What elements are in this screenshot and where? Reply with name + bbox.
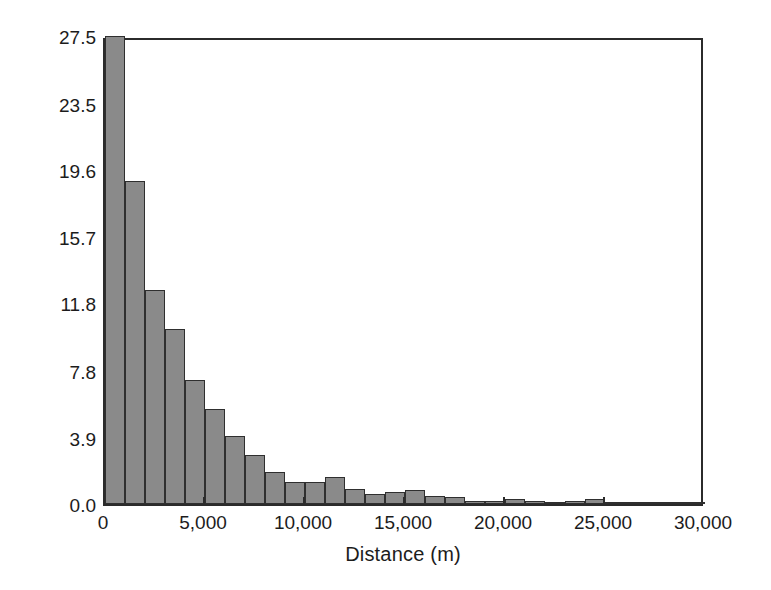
plot-frame: [103, 38, 703, 506]
histogram-bar: [345, 489, 365, 504]
histogram-bar: [565, 501, 585, 504]
histogram-bar: [445, 497, 465, 504]
histogram-bar: [545, 502, 565, 504]
histogram-bar: [485, 501, 505, 504]
histogram-bar: [385, 492, 405, 504]
histogram-bar: [645, 502, 665, 504]
x-axis-tick-mark: [403, 497, 405, 506]
y-axis-tick-label: 19.6: [32, 162, 96, 181]
x-axis-title: Distance (m): [103, 543, 703, 566]
plot-area: [105, 40, 701, 504]
histogram-bar: [205, 409, 225, 504]
y-axis-tick-label: 27.5: [32, 28, 96, 47]
x-axis-tick-mark: [303, 497, 305, 506]
histogram-bar: [225, 436, 245, 504]
histogram-bar: [685, 502, 705, 504]
histogram-bar: [365, 494, 385, 504]
histogram-bar: [165, 329, 185, 504]
histogram-bar: [665, 502, 685, 504]
x-axis-tick-mark: [203, 497, 205, 506]
histogram-bar: [185, 380, 205, 504]
histogram-bar: [585, 499, 605, 504]
y-axis-tick-label: 23.5: [32, 96, 96, 115]
histogram-bar: [145, 290, 165, 504]
histogram-bar: [325, 477, 345, 504]
y-axis-tick-label: 7.8: [32, 363, 96, 382]
histogram-bar: [625, 502, 645, 504]
histogram-bar: [125, 181, 145, 504]
histogram-bar: [425, 496, 445, 505]
histogram-bar: [105, 36, 125, 504]
histogram-bar: [605, 502, 625, 504]
histogram-bar: [285, 482, 305, 504]
x-axis-tick-mark: [503, 497, 505, 506]
histogram-bar: [305, 482, 325, 504]
y-axis-tick-label: 11.8: [32, 295, 96, 314]
y-axis-tick-label: 15.7: [32, 229, 96, 248]
histogram-bar: [405, 490, 425, 504]
histogram-bar: [265, 472, 285, 504]
histogram-bar: [245, 455, 265, 504]
histogram-bar: [465, 501, 485, 504]
histogram-bar: [525, 501, 545, 504]
y-axis-tick-label: 3.9: [32, 430, 96, 449]
x-axis-tick-mark: [603, 497, 605, 506]
histogram-figure: Percentage 0.03.97.811.815.719.623.527.5…: [0, 0, 771, 590]
histogram-bar: [505, 499, 525, 504]
x-axis-tick-label: 30,000: [643, 512, 763, 534]
